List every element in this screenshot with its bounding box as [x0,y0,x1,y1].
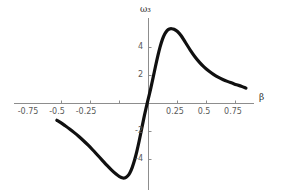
y-tick-label-4: 4 [138,43,143,51]
x-tick-label--0.5: -0.5 [49,108,65,116]
y-axis-title: ω₃ [140,5,151,14]
y-tick-label-2: 2 [138,71,143,79]
x-tick-label--0.75: -0.75 [18,108,39,116]
x-axis-title: β [259,93,264,102]
x-tick-label-0.25: 0.25 [166,108,184,116]
plot-canvas [0,0,291,195]
x-tick-label--0.25: -0.25 [76,108,97,116]
chart-figure: ω₃ β -0.75 -0.5 -0.25 0.25 0.5 0.75 4 2 … [0,0,291,195]
y-tick-label--4: -4 [135,155,143,163]
y-tick-label--2: -2 [135,127,143,135]
x-tick-label-0.75: 0.75 [224,108,242,116]
x-tick-label-0.5: 0.5 [198,108,211,116]
